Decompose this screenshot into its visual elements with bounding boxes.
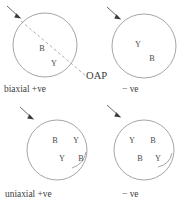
caption-biaxial-positive: biaxial +ve	[4, 84, 46, 94]
incident-light-arrow-uniaxial-negative	[107, 105, 121, 117]
interference-circle-uniaxial-positive	[27, 120, 87, 180]
caption-uniaxial-positive: uniaxial +ve	[5, 189, 52, 199]
interference-circle-biaxial-negative	[112, 14, 176, 78]
letter-y: Y	[59, 154, 65, 163]
letter-b: B	[52, 136, 58, 145]
incident-light-arrow-biaxial-positive	[7, 6, 21, 18]
letter-y: Y	[155, 154, 161, 163]
caption-biaxial-negative: − ve	[122, 84, 138, 94]
letter-y: Y	[51, 59, 57, 68]
letter-y: Y	[73, 136, 79, 145]
panel-uniaxial-positive: B Y Y B	[20, 107, 87, 180]
panel-biaxial-positive: B Y	[7, 6, 86, 77]
letter-b: B	[39, 44, 45, 53]
caption-uniaxial-negative: − ve	[122, 189, 138, 199]
letter-b: B	[149, 54, 155, 63]
letter-b: B	[78, 154, 84, 163]
optic-figure-diagram: B Y OAP biaxial +ve Y B − ve	[0, 0, 191, 207]
letter-b: B	[150, 136, 156, 145]
letter-y: Y	[135, 40, 141, 49]
letter-b: B	[137, 154, 143, 163]
interference-circle-uniaxial-negative	[114, 120, 174, 180]
incident-light-arrow-biaxial-negative	[107, 7, 121, 19]
diagram-canvas: B Y OAP biaxial +ve Y B − ve	[0, 0, 191, 207]
panel-uniaxial-negative: Y B B Y	[107, 105, 174, 180]
letter-y: Y	[129, 136, 135, 145]
oap-label: OAP	[86, 70, 107, 81]
panel-biaxial-negative: Y B	[107, 7, 176, 78]
incident-light-arrow-uniaxial-positive	[20, 107, 34, 119]
